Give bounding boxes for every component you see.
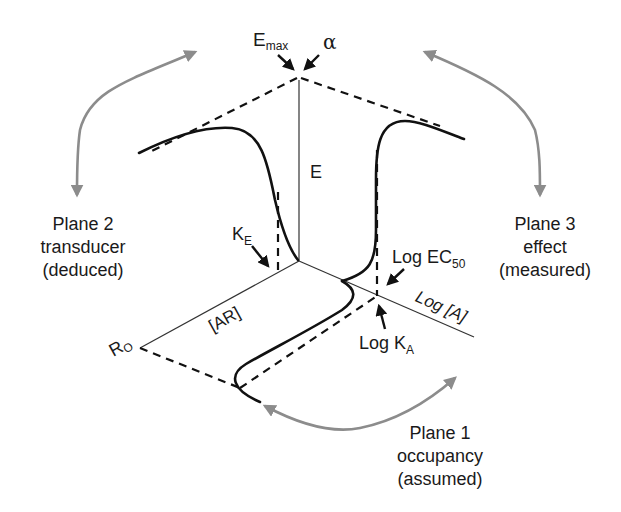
- emax-dash-left: [150, 78, 297, 152]
- transducer-curve: [139, 128, 298, 260]
- plane-2-label: Plane 2 transducer (deduced): [33, 213, 133, 282]
- emax-arrow: [278, 55, 293, 69]
- effect-axis-label: E: [310, 163, 322, 181]
- ec50-arrow: [388, 269, 404, 284]
- annotation-arrows: [252, 55, 404, 329]
- plane-3-label: Plane 3 effect (measured): [490, 213, 600, 282]
- ke-arrow: [252, 246, 268, 266]
- ar-axis: [140, 261, 299, 348]
- plane-1-label: Plane 1 occupancy (assumed): [375, 422, 505, 491]
- alpha-arrow: [305, 55, 319, 69]
- ka-dash: [240, 296, 377, 388]
- ka-arrow: [379, 306, 385, 329]
- log-ec50-label: Log EC50: [392, 248, 465, 266]
- plane-arrows: [77, 52, 540, 430]
- emax-label: Emax: [253, 30, 288, 49]
- occupancy-curve: [235, 281, 353, 402]
- ke-label: KE: [232, 225, 252, 243]
- alpha-label: α: [323, 32, 337, 52]
- plane2-arrow: [77, 52, 195, 195]
- plane3-arrow: [425, 52, 540, 195]
- emax-dash-right: [301, 78, 440, 126]
- log-ka-label: Log KA: [359, 334, 414, 352]
- ro-dash: [140, 348, 240, 388]
